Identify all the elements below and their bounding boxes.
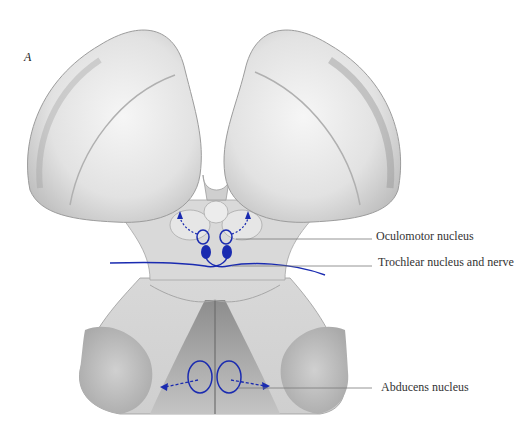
right-hemisphere: [224, 30, 401, 222]
panel-letter: A: [24, 50, 31, 65]
oculomotor-nucleus-label: Oculomotor nucleus: [376, 229, 474, 244]
left-hemisphere: [28, 30, 202, 222]
lower-brainstem: [79, 278, 348, 414]
trochlear-nucleus-label: Trochlear nucleus and nerve: [378, 255, 518, 270]
brainstem-illustration: [0, 0, 518, 438]
pineal-body: [204, 201, 228, 223]
abducens-nucleus-label: Abducens nucleus: [381, 380, 469, 395]
